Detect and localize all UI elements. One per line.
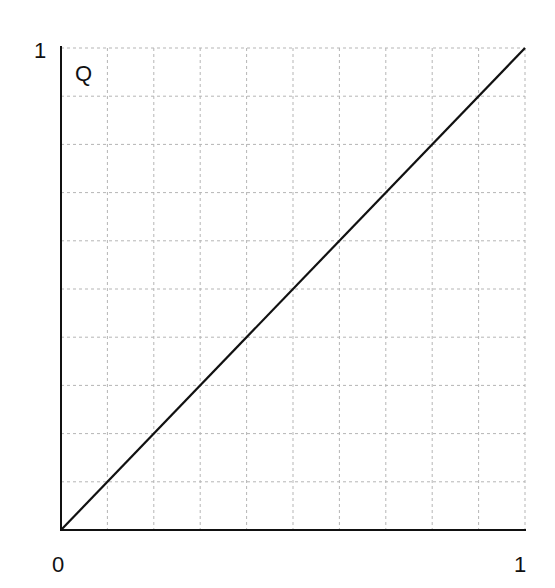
diagram-canvas: 1 Q 0 1 xyxy=(0,0,555,588)
x-max-label: 1 xyxy=(514,552,526,577)
curve-label-q: Q xyxy=(75,61,92,86)
y-max-label: 1 xyxy=(34,38,46,63)
origin-label: 0 xyxy=(52,552,64,577)
